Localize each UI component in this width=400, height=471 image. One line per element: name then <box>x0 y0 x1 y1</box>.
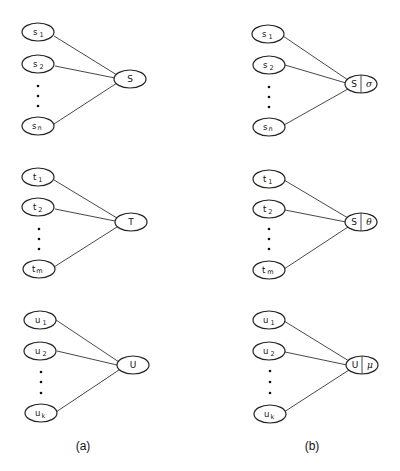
edge-u2-U <box>57 351 117 365</box>
node-t1: t1 <box>22 168 54 186</box>
node-U: U <box>117 356 149 374</box>
ellipsis-dots <box>37 85 40 108</box>
node-s2: s2 <box>253 56 285 74</box>
svg-text:μ: μ <box>367 360 373 370</box>
node-s2: s2 <box>22 55 54 73</box>
node-tm: tm <box>23 260 55 278</box>
svg-text:U: U <box>352 360 359 370</box>
panel-a-group-t: t1 t2 tm T <box>22 168 147 278</box>
svg-text:T: T <box>127 217 134 227</box>
edge-uk-U <box>56 370 119 412</box>
node-t2: t2 <box>253 200 285 218</box>
node-uk: uk <box>254 405 286 423</box>
panel-a: s1 s2 sn S <box>22 23 149 453</box>
panel-b-group-t: t1 t2 tm S θ <box>253 170 377 279</box>
node-u1: u1 <box>253 311 285 329</box>
node-T: T <box>115 213 147 231</box>
edge-s1-S <box>283 36 348 80</box>
node-s1: s1 <box>252 25 284 43</box>
panel-b-group-s: s1 s2 sn S σ <box>252 25 377 136</box>
node-S-sigma: S σ <box>345 75 377 93</box>
edge-t1-T <box>54 180 117 218</box>
edge-sn-S <box>284 89 348 125</box>
node-u1: u1 <box>24 311 56 329</box>
node-uk: uk <box>25 404 57 422</box>
node-S: S <box>114 70 146 88</box>
ellipsis-dots <box>40 371 43 395</box>
caption-a: (a) <box>76 439 91 453</box>
edge-sn-S <box>54 83 117 124</box>
edge-s2-S <box>285 65 346 83</box>
node-tm: tm <box>253 261 285 279</box>
edge-u1-U <box>56 320 119 362</box>
svg-text:S: S <box>351 79 357 89</box>
node-s1: s1 <box>22 23 54 41</box>
edge-s1-S <box>54 36 117 75</box>
node-S-theta: S θ <box>345 213 377 231</box>
edge-t2-T <box>55 209 115 221</box>
node-u2: u2 <box>253 342 285 360</box>
svg-text:S: S <box>351 217 357 227</box>
panel-b-group-u: u1 u2 uk U μ <box>253 311 378 423</box>
diagram-canvas: s1 s2 sn S <box>0 0 400 471</box>
edge-uk-U <box>284 370 349 412</box>
edge-t1-S <box>284 180 348 218</box>
ellipsis-dots <box>268 228 271 251</box>
svg-text:θ: θ <box>366 217 372 227</box>
ellipsis-dots <box>38 228 41 251</box>
svg-text:σ: σ <box>366 79 373 89</box>
svg-text:U: U <box>130 360 137 370</box>
node-sn: sn <box>253 118 285 136</box>
caption-b: (b) <box>305 439 320 453</box>
panel-b: s1 s2 sn S σ <box>252 25 378 453</box>
node-u2: u2 <box>24 342 56 360</box>
edge-u1-U <box>284 321 349 361</box>
node-t1: t1 <box>253 170 285 188</box>
panel-a-group-s: s1 s2 sn S <box>22 23 146 135</box>
edge-tm-S <box>284 227 348 269</box>
edge-tm-T <box>54 227 117 267</box>
node-t2: t2 <box>22 198 54 216</box>
ellipsis-dots <box>269 370 272 395</box>
node-U-mu: U μ <box>346 356 378 374</box>
panel-a-group-u: u1 u2 uk U <box>24 311 149 422</box>
node-sn: sn <box>22 117 54 135</box>
ellipsis-dots <box>268 86 271 109</box>
svg-text:S: S <box>127 74 133 84</box>
